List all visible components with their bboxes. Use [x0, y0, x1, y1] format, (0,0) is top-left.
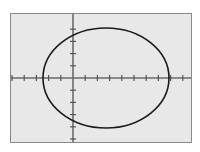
graph-screenshot	[0, 0, 200, 152]
axes-group	[11, 14, 191, 142]
plot-canvas	[11, 14, 191, 142]
plot-frame	[10, 13, 192, 143]
